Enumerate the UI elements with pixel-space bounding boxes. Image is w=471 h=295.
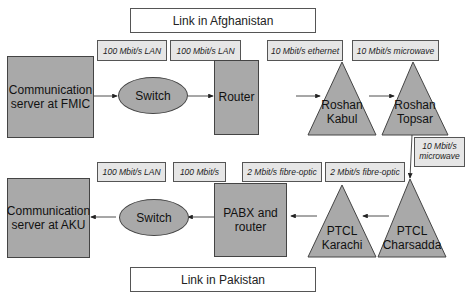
roshan-topsar-label: Roshan Topsar bbox=[382, 98, 448, 127]
node-label: Communication bbox=[7, 204, 90, 218]
link-label: 100 Mbit/s bbox=[173, 162, 226, 182]
node-label: PABX and bbox=[223, 206, 277, 220]
link-label: 10 Mbit/s ethernet bbox=[267, 40, 343, 61]
node-label: server at FMIC bbox=[9, 97, 92, 111]
node-label: Roshan bbox=[308, 98, 376, 112]
node-label: Kabul bbox=[308, 112, 376, 126]
switch-top-node: Switch bbox=[118, 77, 188, 114]
link-label: 100 Mbit/s LAN bbox=[170, 40, 241, 61]
link-label: 100 Mbit/s LAN bbox=[97, 162, 166, 182]
arrow-topsar-charsadda bbox=[410, 135, 412, 178]
cross-link-label: 10 Mbit/s microwave bbox=[414, 137, 465, 167]
pabx-router-node: PABX and router bbox=[214, 183, 287, 257]
server-fmic-node: Communication server at FMIC bbox=[7, 56, 94, 138]
region-afghanistan: Link in Afghanistan bbox=[130, 8, 316, 33]
switch-bottom-node: Switch bbox=[119, 199, 189, 236]
node-label: router bbox=[223, 220, 277, 234]
node-label: Roshan bbox=[382, 98, 448, 112]
node-label: PTCL bbox=[308, 224, 376, 238]
node-label: Karachi bbox=[308, 238, 376, 252]
link-label: 2 Mbit/s fibre-optic bbox=[325, 162, 405, 182]
server-aku-node: Communication server at AKU bbox=[7, 178, 90, 258]
node-label: Topsar bbox=[382, 112, 448, 126]
region-pakistan: Link in Pakistan bbox=[130, 267, 316, 292]
roshan-kabul-label: Roshan Kabul bbox=[308, 98, 376, 127]
link-label: 2 Mbit/s fibre-optic bbox=[242, 162, 322, 182]
node-label: Communication bbox=[9, 83, 92, 97]
node-label: Charsadda bbox=[378, 238, 446, 252]
link-label: 100 Mbit/s LAN bbox=[97, 40, 167, 61]
node-label: PTCL bbox=[378, 224, 446, 238]
node-label: server at AKU bbox=[7, 218, 90, 232]
ptcl-karachi-label: PTCL Karachi bbox=[308, 224, 376, 253]
cross-link-line: microwave bbox=[419, 152, 460, 162]
ptcl-charsadda-label: PTCL Charsadda bbox=[378, 224, 446, 253]
link-label: 10 Mbit/s microwave bbox=[352, 40, 439, 61]
